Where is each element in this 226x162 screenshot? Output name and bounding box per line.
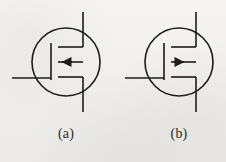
- figure-caption-b: (b): [157, 126, 201, 142]
- figure-screenshot: (a) (b): [0, 0, 226, 162]
- mosfet-symbol-a: [12, 12, 100, 112]
- mosfet-symbol-b: [125, 12, 213, 112]
- figure-caption-a: (a): [44, 126, 88, 142]
